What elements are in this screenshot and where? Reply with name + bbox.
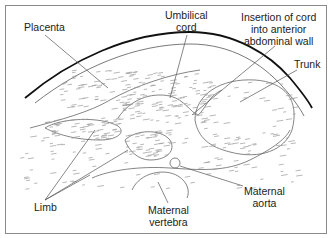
texture-speckle (101, 137, 106, 138)
texture-speckle (156, 140, 160, 141)
texture-speckle (96, 148, 102, 149)
texture-speckle (68, 84, 72, 85)
texture-speckle (151, 187, 154, 188)
texture-speckle (98, 130, 103, 131)
texture-speckle (279, 164, 283, 165)
texture-speckle (76, 89, 80, 90)
texture-speckle (237, 188, 242, 189)
label-umbilical-cord-line-1: Umbilical (165, 9, 208, 21)
texture-speckle (185, 77, 188, 78)
texture-speckle (202, 102, 206, 103)
texture-speckle (126, 102, 130, 103)
texture-speckle (21, 158, 24, 159)
texture-speckle (202, 146, 208, 147)
texture-speckle (128, 87, 131, 88)
texture-speckle (95, 81, 100, 82)
texture-speckle (205, 120, 210, 121)
texture-speckle (207, 174, 211, 175)
texture-speckle (178, 106, 182, 107)
texture-speckle (252, 144, 256, 145)
texture-speckle (153, 153, 157, 154)
texture-speckle (27, 180, 30, 181)
texture-speckle (137, 116, 142, 117)
texture-speckle (73, 76, 77, 77)
texture-speckle (83, 126, 88, 127)
texture-speckle (218, 159, 223, 160)
texture-speckle (102, 118, 105, 119)
texture-speckle (51, 146, 56, 147)
texture-speckle (289, 141, 295, 142)
texture-speckle (123, 110, 126, 111)
texture-speckle (204, 162, 210, 163)
texture-speckle (122, 97, 127, 98)
texture-speckle (233, 143, 238, 144)
texture-speckle (122, 89, 127, 90)
texture-speckle (102, 125, 105, 126)
texture-speckle (244, 146, 249, 147)
texture-speckle (148, 155, 154, 156)
label-maternal-aorta-line-1: Maternal (244, 185, 285, 197)
texture-speckle (88, 86, 92, 87)
texture-speckle (145, 78, 149, 79)
texture-speckle (281, 175, 287, 176)
texture-speckle (123, 108, 127, 109)
texture-speckle (167, 130, 172, 131)
texture-speckle (130, 74, 135, 75)
texture-speckle (134, 79, 139, 80)
texture-speckle (133, 72, 137, 73)
texture-speckle (79, 98, 84, 99)
texture-speckle (97, 87, 101, 88)
texture-speckle (117, 118, 121, 119)
texture-speckle (215, 136, 219, 137)
texture-speckle (101, 100, 106, 101)
texture-speckle (125, 163, 128, 164)
label-maternal-vertebra-line-1: Maternal (148, 204, 189, 216)
texture-speckle (52, 131, 55, 132)
texture-speckle (209, 95, 214, 96)
texture-speckle (96, 145, 102, 146)
texture-speckle (78, 105, 83, 106)
texture-speckle (164, 145, 170, 146)
texture-speckle (196, 91, 200, 92)
texture-speckle (171, 88, 175, 89)
texture-speckle (154, 155, 158, 156)
leader-trunk (240, 70, 297, 102)
texture-speckle (118, 77, 123, 78)
texture-speckle (24, 177, 28, 178)
texture-speckle (187, 105, 191, 106)
texture-speckle (224, 123, 230, 124)
texture-speckle (104, 133, 109, 134)
label-umbilical-cord-line-2: cord (165, 21, 208, 33)
texture-speckle (183, 97, 187, 98)
texture-speckle (280, 155, 286, 156)
texture-speckle (176, 84, 179, 85)
texture-speckle (26, 189, 29, 190)
texture-speckle (126, 85, 130, 86)
texture-speckle (291, 143, 295, 144)
texture-speckle (28, 158, 33, 159)
texture-speckle (172, 95, 176, 96)
texture-speckle (135, 106, 140, 107)
texture-speckle (235, 140, 239, 141)
label-insertion-line-1: Insertion of cord (241, 11, 316, 23)
texture-speckle (158, 143, 164, 144)
texture-speckle (89, 125, 94, 126)
texture-speckle (93, 166, 96, 167)
texture-speckle (210, 86, 215, 87)
texture-speckle (63, 182, 67, 183)
texture-speckle (143, 119, 149, 120)
texture-speckle (168, 95, 171, 96)
texture-speckle (273, 134, 278, 135)
texture-speckle (297, 175, 303, 176)
texture-speckle (135, 111, 139, 112)
label-maternal-aorta-line-2: aorta (244, 197, 285, 209)
texture-speckle (176, 105, 181, 106)
texture-speckle (121, 187, 125, 188)
texture-speckle (130, 118, 134, 119)
texture-speckle (115, 131, 121, 132)
texture-speckle (130, 154, 133, 155)
texture-speckle (141, 94, 145, 95)
texture-speckle (175, 123, 181, 124)
texture-speckle (234, 161, 238, 162)
label-maternal-aorta: Maternal aorta (244, 185, 285, 209)
